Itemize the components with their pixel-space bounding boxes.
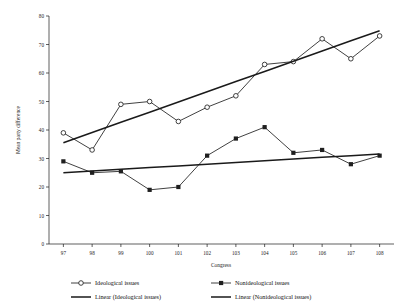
data-point: [205, 105, 210, 110]
data-point: [320, 148, 324, 152]
y-tick-label: 0: [41, 241, 44, 247]
x-axis-ticks: 979899100101102103104105106107108: [61, 244, 384, 256]
y-tick-label: 70: [39, 42, 45, 48]
data-point: [176, 119, 181, 124]
line-chart: 01020304050607080 9798991001011021031041…: [0, 0, 414, 308]
data-point: [205, 154, 209, 158]
data-point: [349, 56, 354, 61]
data-point: [176, 185, 180, 189]
y-tick-label: 20: [39, 184, 45, 190]
legend-label: Linear (Nonideological issues): [235, 293, 311, 301]
data-point: [291, 151, 295, 155]
x-tick-label: 102: [203, 250, 211, 256]
legend-label: Linear (Ideological issues): [95, 293, 161, 301]
data-point: [320, 37, 325, 42]
legend-item: Linear (Ideological issues): [71, 293, 161, 301]
y-tick-label: 80: [39, 13, 45, 19]
x-tick-label: 100: [146, 250, 154, 256]
chart-series: [63, 154, 379, 173]
legend-marker-open-circle-icon: [79, 281, 84, 286]
x-tick-label: 105: [289, 250, 297, 256]
chart-legend: Ideological issuesNonideological issuesL…: [71, 279, 311, 301]
chart-series: [61, 34, 382, 153]
data-point: [119, 102, 124, 107]
data-point: [234, 94, 239, 99]
y-tick-label: 60: [39, 70, 45, 76]
x-tick-label: 99: [118, 250, 124, 256]
data-point: [147, 99, 152, 104]
y-tick-label: 30: [39, 156, 45, 162]
data-point: [61, 159, 65, 163]
legend-marker-filled-square-icon: [219, 281, 223, 285]
chart-series: [63, 31, 379, 143]
legend-label: Nonideological issues: [235, 279, 290, 286]
x-axis-title: Congress: [211, 262, 231, 268]
data-point: [148, 188, 152, 192]
legend-item: Linear (Nonideological issues): [211, 293, 311, 301]
legend-item: Ideological issues: [71, 279, 140, 286]
data-point: [349, 162, 353, 166]
y-tick-label: 50: [39, 99, 45, 105]
legend-item: Nonideological issues: [211, 279, 290, 286]
data-point: [377, 34, 382, 39]
x-tick-label: 108: [376, 250, 384, 256]
y-tick-label: 40: [39, 127, 45, 133]
x-tick-label: 107: [347, 250, 355, 256]
x-tick-label: 106: [318, 250, 326, 256]
x-tick-label: 101: [174, 250, 182, 256]
data-point: [90, 148, 95, 153]
x-tick-label: 103: [232, 250, 240, 256]
legend-label: Ideological issues: [95, 279, 140, 286]
x-tick-label: 104: [261, 250, 269, 256]
y-axis-ticks: 01020304050607080: [39, 13, 49, 247]
y-tick-label: 10: [39, 213, 45, 219]
data-point: [262, 62, 267, 67]
x-tick-label: 98: [90, 250, 96, 256]
y-axis-title: Mean party difference: [15, 105, 21, 153]
chart-series-layer: [61, 31, 382, 192]
chart-container: 01020304050607080 9798991001011021031041…: [0, 0, 414, 308]
chart-series: [61, 125, 381, 192]
data-point: [263, 125, 267, 129]
x-tick-label: 97: [61, 250, 67, 256]
data-point: [61, 131, 66, 136]
data-point: [234, 136, 238, 140]
